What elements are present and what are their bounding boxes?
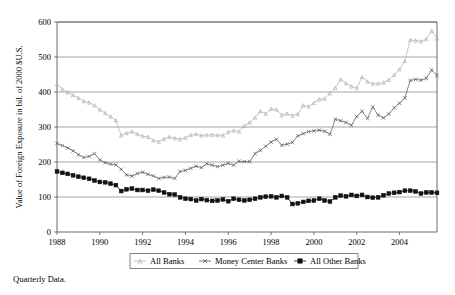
data-point-marker: [371, 196, 375, 200]
legend-label: All Banks: [150, 256, 184, 266]
data-point-marker: [307, 199, 311, 203]
data-point-marker: [430, 191, 434, 195]
data-point-marker: [61, 144, 65, 148]
foreign-exposure-line-chart: Value of Foreign Exposure in bil. of 200…: [0, 0, 455, 295]
data-point-marker: [216, 199, 220, 203]
x-tick-label: 1994: [177, 237, 195, 247]
data-point-marker: [248, 198, 252, 202]
data-point-marker: [253, 152, 257, 156]
data-point-marker: [269, 194, 273, 198]
data-point-marker: [167, 192, 171, 196]
x-tick-label: 2004: [391, 237, 409, 247]
data-point-marker: [66, 146, 70, 150]
data-point-marker: [135, 188, 139, 192]
data-point-marker: [125, 187, 129, 191]
data-point-marker: [398, 190, 402, 194]
data-point-marker: [189, 167, 193, 171]
data-point-marker: [151, 188, 155, 192]
data-point-marker: [109, 182, 113, 186]
data-point-marker: [146, 172, 150, 176]
x-tick-label: 1996: [220, 237, 237, 247]
data-point-marker: [296, 134, 300, 138]
data-point-marker: [210, 199, 214, 203]
y-tick-label: 500: [38, 52, 51, 62]
data-point-marker: [242, 199, 246, 203]
series-all-banks: [55, 29, 438, 143]
data-point-marker: [301, 132, 305, 136]
data-point-marker: [317, 197, 321, 201]
data-point-marker: [424, 191, 428, 195]
x-axis-ticks: 198819901992199419961998200020022004: [49, 232, 409, 247]
data-point-marker: [77, 153, 81, 157]
data-point-marker: [392, 191, 396, 195]
data-point-marker: [98, 180, 102, 184]
y-tick-label: 200: [38, 157, 51, 167]
data-point-marker: [344, 194, 348, 198]
data-point-marker: [323, 199, 327, 203]
x-tick-label: 1990: [91, 237, 108, 247]
data-point-marker: [430, 68, 434, 72]
data-point-marker: [419, 192, 423, 196]
data-point-marker: [200, 197, 204, 201]
data-point-marker: [119, 168, 123, 172]
data-point-marker: [360, 109, 364, 113]
x-tick-label: 2000: [305, 237, 322, 247]
data-point-marker: [355, 194, 359, 198]
data-point-marker: [387, 192, 391, 196]
data-point-marker: [291, 141, 295, 145]
figure-caption: Quarterly Data.: [13, 274, 66, 284]
legend-label: All Other Banks: [310, 256, 366, 266]
data-point-marker: [194, 199, 198, 203]
data-point-marker: [269, 140, 273, 144]
y-tick-label: 100: [38, 192, 51, 202]
data-point-marker: [312, 199, 316, 203]
data-point-marker: [376, 113, 380, 117]
data-point-marker: [382, 116, 386, 120]
data-point-marker: [71, 149, 75, 153]
data-point-marker: [285, 195, 289, 199]
data-point-marker: [93, 179, 97, 183]
data-point-marker: [349, 193, 353, 197]
y-tick-label: 300: [38, 122, 51, 132]
data-point-marker: [264, 195, 268, 199]
data-point-marker: [55, 170, 59, 174]
data-point-marker: [366, 117, 370, 121]
data-point-marker: [162, 191, 166, 195]
data-point-marker: [333, 195, 337, 199]
chart-figure: Value of Foreign Exposure in bil. of 200…: [0, 0, 455, 295]
data-point-marker: [157, 189, 161, 193]
data-point-marker: [328, 200, 332, 204]
data-point-marker: [226, 199, 230, 203]
y-tick-label: 400: [38, 87, 51, 97]
data-point-marker: [392, 106, 396, 110]
data-point-marker: [344, 121, 348, 125]
data-point-marker: [184, 197, 188, 201]
data-series: [55, 29, 439, 206]
y-axis-title-label: Value of Foreign Exposure in bil. of 200…: [14, 45, 24, 208]
data-point-marker: [382, 193, 386, 197]
data-point-marker: [296, 201, 300, 205]
x-tick-label: 2002: [348, 237, 365, 247]
data-point-marker: [301, 200, 305, 204]
data-point-marker: [328, 133, 332, 137]
data-point-marker: [119, 189, 123, 193]
y-tick-label: 600: [38, 17, 51, 27]
data-point-marker: [403, 189, 407, 193]
data-point-marker: [424, 77, 428, 81]
data-point-marker: [403, 96, 407, 100]
data-point-marker: [103, 180, 107, 184]
x-tick-label: 1992: [134, 237, 151, 247]
data-point-marker: [237, 198, 241, 202]
data-point-marker: [366, 195, 370, 199]
data-point-marker: [387, 112, 391, 116]
data-point-marker: [60, 171, 64, 175]
data-point-marker: [114, 183, 118, 187]
series-line: [57, 31, 437, 142]
data-point-marker: [77, 175, 81, 179]
data-point-marker: [253, 197, 257, 201]
data-point-marker: [398, 101, 402, 105]
data-point-marker: [189, 197, 193, 201]
data-point-marker: [275, 137, 279, 141]
data-point-marker: [275, 195, 279, 199]
data-point-marker: [146, 189, 150, 193]
